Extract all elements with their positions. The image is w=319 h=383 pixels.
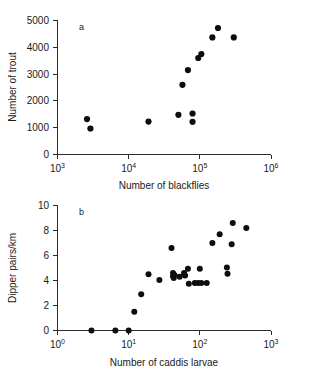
data-point — [204, 280, 210, 286]
data-point — [175, 112, 181, 118]
data-point — [209, 240, 215, 246]
data-point — [189, 110, 195, 116]
panel-b-xtick-1e2: 102 — [192, 338, 207, 350]
data-point — [198, 280, 204, 286]
data-point — [185, 266, 191, 272]
panel-b-ytick-10: 10 — [38, 200, 50, 211]
panel-a-xtick-1e6: 106 — [263, 162, 278, 174]
panel-b-ytick-0: 0 — [43, 325, 49, 336]
panel-a-y-axis-title: Number of trout — [7, 52, 18, 122]
panel-a-ytick-5000: 5000 — [27, 15, 50, 26]
data-point — [215, 25, 221, 31]
panel-a-data-points — [84, 25, 237, 132]
panel-b-data-points — [88, 220, 249, 334]
panel-b-y-tick-labels: 10 8 6 4 2 0 — [38, 200, 50, 336]
panel-a-letter: a — [79, 22, 84, 32]
data-point — [126, 328, 132, 334]
data-point — [171, 272, 177, 278]
panel-b-xtick-1e1: 101 — [121, 338, 136, 350]
panel-b-ytick-2: 2 — [43, 300, 49, 311]
panel-a-y-ticks — [53, 21, 58, 155]
panel-a-scatter-plot: 5000 4000 3000 2000 1000 0 103 104 105 1… — [0, 0, 319, 190]
panel-b-scatter-plot: 10 8 6 4 2 0 100 101 102 103 — [0, 188, 319, 383]
data-point — [224, 264, 230, 270]
data-point — [243, 225, 249, 231]
data-point — [156, 277, 162, 283]
panel-a-ytick-1000: 1000 — [27, 122, 50, 133]
panel-a-x-ticks — [58, 155, 272, 160]
panel-a-ytick-2000: 2000 — [27, 95, 50, 106]
panel-b-letter: b — [79, 207, 84, 217]
data-point — [229, 241, 235, 247]
scientific-figure: 5000 4000 3000 2000 1000 0 103 104 105 1… — [0, 0, 319, 383]
panel-a-x-tick-labels: 103 104 105 106 — [50, 162, 279, 174]
data-point — [84, 116, 90, 122]
data-point — [185, 67, 191, 73]
data-point — [138, 291, 144, 297]
data-point — [198, 51, 204, 57]
data-point — [231, 34, 237, 40]
data-point — [225, 271, 231, 277]
data-point — [87, 125, 93, 131]
data-point — [179, 82, 185, 88]
panel-a-xtick-1e3: 103 — [50, 162, 65, 174]
data-point — [182, 273, 188, 279]
data-point — [169, 245, 175, 251]
data-point — [145, 118, 151, 124]
panel-a-ytick-3000: 3000 — [27, 69, 50, 80]
data-point — [217, 231, 223, 237]
panel-a-svg: 5000 4000 3000 2000 1000 0 103 104 105 1… — [0, 0, 319, 190]
data-point — [209, 34, 215, 40]
data-point — [131, 309, 137, 315]
panel-a-y-tick-labels: 5000 4000 3000 2000 1000 0 — [27, 15, 50, 160]
panel-b-xtick-1e0: 100 — [50, 338, 65, 350]
data-point — [197, 266, 203, 272]
panel-a-ytick-0: 0 — [43, 149, 49, 160]
panel-b-ytick-8: 8 — [43, 225, 49, 236]
panel-b-y-ticks — [53, 206, 58, 331]
data-point — [88, 328, 94, 334]
panel-b-xtick-1e3: 103 — [263, 338, 278, 350]
panel-b-x-tick-labels: 100 101 102 103 — [50, 338, 279, 350]
data-point — [189, 119, 195, 125]
panel-b-svg: 10 8 6 4 2 0 100 101 102 103 — [0, 188, 319, 383]
data-point — [112, 328, 118, 334]
panel-a-xtick-1e5: 105 — [192, 162, 207, 174]
panel-b-x-axis-title: Number of caddis larvae — [110, 357, 219, 368]
data-point — [230, 220, 236, 226]
panel-b-ytick-4: 4 — [43, 275, 49, 286]
data-point — [186, 281, 192, 287]
panel-b-y-axis-title: Dipper pairs/km — [7, 233, 18, 303]
data-point — [146, 271, 152, 277]
panel-a-xtick-1e4: 104 — [121, 162, 136, 174]
panel-b-ytick-6: 6 — [43, 250, 49, 261]
panel-a-ytick-4000: 4000 — [27, 42, 50, 53]
